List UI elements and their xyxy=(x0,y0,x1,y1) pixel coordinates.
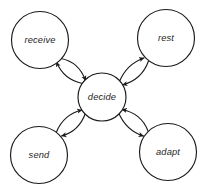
diagram-canvas: receive rest send adapt decide xyxy=(0,0,205,195)
node-send[interactable]: send xyxy=(11,127,68,184)
node-adapt-label: adapt xyxy=(156,147,180,157)
edge-decide-to-adapt xyxy=(119,113,144,137)
node-adapt[interactable]: adapt xyxy=(140,124,197,181)
edge-decide-to-send xyxy=(62,113,86,136)
node-decide[interactable]: decide xyxy=(78,73,126,121)
node-decide-label: decide xyxy=(88,92,116,102)
edge-group-rest-decide xyxy=(119,58,149,85)
node-send-label: send xyxy=(29,150,50,160)
edge-receive-to-decide xyxy=(61,59,86,81)
edge-decide-to-rest xyxy=(119,58,144,83)
node-rest[interactable]: rest xyxy=(138,10,195,67)
edge-group-receive-decide xyxy=(57,59,86,84)
cycle-diagram: receive rest send adapt decide xyxy=(0,0,205,195)
node-rest-label: rest xyxy=(158,33,174,43)
edge-adapt-to-decide xyxy=(122,110,148,132)
node-receive[interactable]: receive xyxy=(12,12,69,69)
edge-rest-to-decide xyxy=(123,61,149,85)
edge-group-send-decide xyxy=(57,110,86,136)
edge-decide-to-receive xyxy=(57,62,83,84)
node-receive-label: receive xyxy=(24,35,55,45)
edge-send-to-decide xyxy=(57,110,83,132)
edge-group-adapt-decide xyxy=(119,110,149,137)
